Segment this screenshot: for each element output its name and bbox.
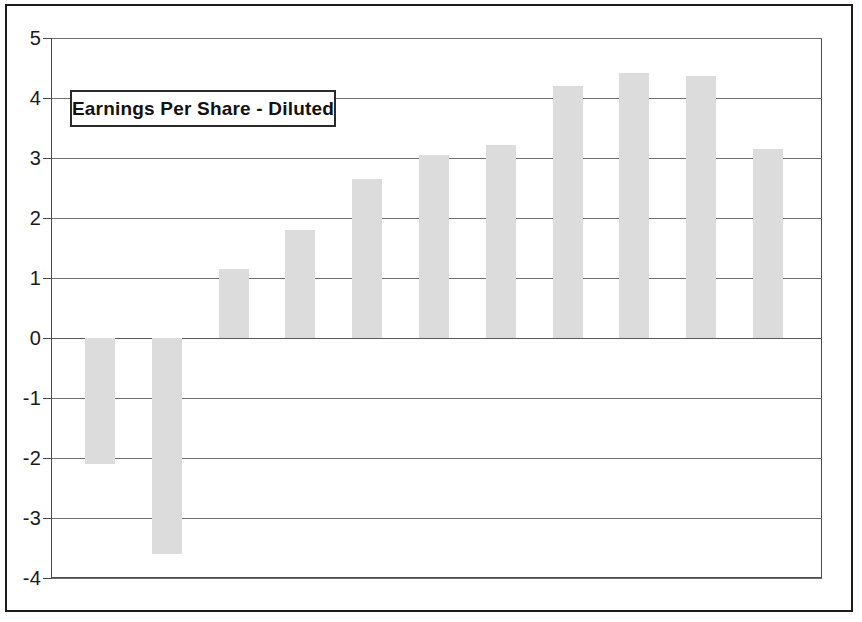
y-tick-mark bbox=[43, 518, 52, 519]
gridline-neg4 bbox=[51, 578, 822, 579]
bar bbox=[352, 179, 382, 338]
bar bbox=[753, 149, 783, 338]
bar bbox=[486, 145, 516, 338]
y-tick-mark bbox=[43, 338, 52, 339]
y-axis-label: -1 bbox=[1, 388, 41, 408]
bar bbox=[219, 269, 249, 338]
y-axis-label: -4 bbox=[1, 568, 41, 588]
chart-title-label: Earnings Per Share - Diluted bbox=[72, 98, 334, 120]
y-tick-mark bbox=[43, 398, 52, 399]
y-tick-mark bbox=[43, 458, 52, 459]
y-axis-label: 3 bbox=[1, 148, 41, 168]
bar bbox=[85, 338, 115, 464]
bar bbox=[553, 86, 583, 338]
gridline-5 bbox=[51, 38, 822, 39]
y-tick-mark bbox=[43, 218, 52, 219]
y-axis-label: 5 bbox=[1, 28, 41, 48]
y-axis-label: 2 bbox=[1, 208, 41, 228]
y-axis-label: 4 bbox=[1, 88, 41, 108]
y-tick-mark bbox=[43, 578, 52, 579]
bar bbox=[686, 76, 716, 338]
y-tick-mark bbox=[43, 38, 52, 39]
y-tick-mark bbox=[43, 278, 52, 279]
bar bbox=[152, 338, 182, 554]
bar-chart: 543210-1-2-3-4 Earnings Per Share - Dilu… bbox=[0, 0, 862, 622]
bar bbox=[285, 230, 315, 338]
y-tick-mark bbox=[43, 98, 52, 99]
chart-title-plate: Earnings Per Share - Diluted bbox=[70, 90, 336, 127]
y-axis-label: 1 bbox=[1, 268, 41, 288]
y-tick-mark bbox=[43, 158, 52, 159]
y-axis-label: -3 bbox=[1, 508, 41, 528]
bar bbox=[619, 73, 649, 338]
y-axis-label: -2 bbox=[1, 448, 41, 468]
bar bbox=[419, 155, 449, 338]
y-axis-label: 0 bbox=[1, 328, 41, 348]
